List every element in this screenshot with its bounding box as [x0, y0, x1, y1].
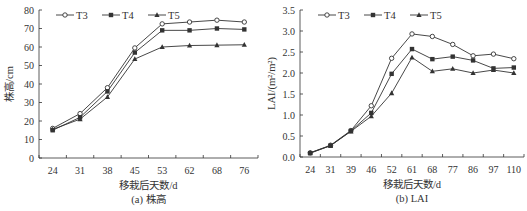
- x-tick-label: 24: [48, 165, 58, 176]
- y-tick-label: 20: [24, 116, 34, 127]
- open-circle-marker-icon: [491, 52, 495, 56]
- series-t4: [50, 26, 246, 132]
- x-tick-label: 97: [488, 164, 498, 175]
- open-circle-marker-icon: [187, 20, 191, 24]
- legend-item-t5: T5: [410, 10, 442, 21]
- open-circle-marker-icon: [451, 42, 455, 46]
- open-circle-marker-icon: [133, 46, 137, 50]
- legend-item-t3: T3: [318, 10, 350, 21]
- x-tick-label: 86: [468, 164, 478, 175]
- filled-square-marker-icon: [471, 58, 475, 62]
- x-tick-label: 62: [185, 165, 195, 176]
- y-tick-label: 1.0: [283, 110, 296, 121]
- filled-square-marker-icon: [133, 50, 137, 54]
- legend-item-t4: T4: [102, 10, 134, 21]
- legend-item-t3: T3: [56, 10, 88, 21]
- open-circle-marker-icon: [410, 32, 414, 36]
- y-tick-label: 0.0: [283, 152, 296, 163]
- y-tick-label: 80: [24, 5, 34, 16]
- y-tick-label: 1.5: [283, 89, 296, 100]
- y-tick-label: 50: [24, 60, 34, 71]
- x-tick-label: 53: [157, 165, 167, 176]
- x-tick-label: 76: [239, 165, 249, 176]
- x-tick-label: 31: [75, 165, 85, 176]
- open-circle-marker-icon: [512, 57, 516, 61]
- x-axis-title: 移栽后天数/d: [119, 179, 178, 191]
- filled-square-marker-icon: [430, 57, 434, 61]
- legend: T3T4T5: [56, 10, 180, 21]
- legend-label: T4: [122, 10, 134, 21]
- chart-caption: (b) LAI: [396, 193, 429, 205]
- y-tick-label: 3.0: [283, 26, 296, 37]
- legend-label: T5: [430, 10, 442, 21]
- y-tick-label: 70: [24, 23, 34, 34]
- y-tick-label: 30: [24, 97, 34, 108]
- series-t3: [50, 18, 246, 131]
- open-circle-marker-icon: [430, 34, 434, 38]
- chart-caption: (a) 株高: [131, 193, 165, 206]
- legend-label: T3: [76, 10, 88, 21]
- open-circle-marker-icon: [160, 22, 164, 26]
- legend-label: T5: [168, 10, 180, 21]
- x-tick-label: 52: [387, 164, 397, 175]
- filled-square-marker-icon: [512, 65, 516, 69]
- filled-square-marker-icon: [187, 28, 191, 32]
- filled-square-marker-icon: [451, 54, 455, 58]
- x-axis-title: 移栽后天数/d: [383, 178, 442, 190]
- filled-triangle-marker-icon: [389, 90, 394, 95]
- y-axis-title: 株高/cm: [3, 66, 15, 102]
- series-line: [310, 57, 514, 152]
- filled-square-marker-icon: [215, 26, 219, 30]
- open-circle-marker-icon: [215, 18, 219, 22]
- open-circle-marker-icon: [471, 54, 475, 58]
- lai-chart: 0.00.51.01.52.02.53.03.52431394652616877…: [262, 0, 527, 211]
- open-circle-marker-icon: [242, 20, 246, 24]
- y-axis-title: LAI/(m²/m²): [266, 57, 278, 110]
- series-line: [310, 34, 514, 153]
- legend-label: T3: [338, 10, 350, 21]
- filled-triangle-marker-icon: [450, 66, 455, 71]
- legend: T3T4T5: [318, 10, 442, 21]
- x-tick-label: 38: [102, 165, 112, 176]
- open-circle-marker-icon: [389, 56, 393, 60]
- filled-square-marker-icon: [105, 89, 109, 93]
- y-tick-label: 60: [24, 42, 34, 53]
- filled-square-marker-icon: [389, 72, 393, 76]
- y-tick-label: 2.0: [283, 68, 296, 79]
- y-tick-label: 0.5: [283, 131, 296, 142]
- open-circle-marker-icon: [369, 104, 373, 108]
- y-tick-label: 40: [24, 79, 34, 90]
- x-tick-label: 39: [346, 164, 356, 175]
- x-tick-label: 110: [506, 164, 521, 175]
- y-tick-label: 10: [24, 134, 34, 145]
- filled-triangle-marker-icon: [409, 55, 414, 60]
- series-t5: [50, 42, 247, 131]
- x-tick-label: 68: [212, 165, 222, 176]
- x-tick-label: 77: [448, 164, 458, 175]
- plant-height-plot: 010203040506070802431384553626876移栽后天数/d…: [0, 0, 262, 211]
- open-circle-marker-icon: [63, 13, 67, 17]
- filled-square-marker-icon: [371, 13, 375, 17]
- filled-square-marker-icon: [160, 28, 164, 32]
- x-tick-label: 31: [326, 164, 336, 175]
- filled-square-marker-icon: [410, 47, 414, 51]
- y-tick-label: 3.5: [283, 5, 296, 16]
- lai-plot: 0.00.51.01.52.02.53.03.52431394652616877…: [262, 0, 527, 211]
- x-tick-label: 24: [305, 164, 315, 175]
- x-tick-label: 46: [366, 164, 376, 175]
- y-tick-label: 0: [29, 153, 34, 164]
- x-tick-label: 61: [407, 164, 417, 175]
- legend-item-t4: T4: [364, 10, 396, 21]
- filled-square-marker-icon: [109, 13, 113, 17]
- series-t5: [308, 55, 517, 155]
- x-tick-label: 45: [130, 165, 140, 176]
- x-tick-label: 68: [427, 164, 437, 175]
- open-circle-marker-icon: [325, 13, 329, 17]
- filled-square-marker-icon: [242, 27, 246, 31]
- legend-item-t5: T5: [148, 10, 180, 21]
- legend-label: T4: [384, 10, 396, 21]
- y-tick-label: 2.5: [283, 47, 296, 58]
- plant-height-chart: 010203040506070802431384553626876移栽后天数/d…: [0, 0, 262, 211]
